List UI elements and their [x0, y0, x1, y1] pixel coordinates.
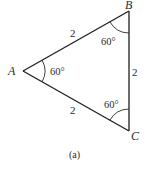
- vertex-label-c: C: [131, 129, 140, 143]
- vertex-label-a: A: [7, 64, 16, 78]
- angle-label-c: 60°: [104, 99, 119, 110]
- angle-label-b: 60°: [101, 36, 116, 47]
- vertex-label-b: B: [125, 0, 133, 12]
- side-label-ac: 2: [70, 104, 76, 116]
- angle-arc-b: [110, 22, 129, 33]
- triangle-diagram: A B C 2 2 2 60° 60° 60° (a): [0, 0, 152, 170]
- side-label-bc: 2: [132, 66, 138, 78]
- figure-caption: (a): [69, 149, 80, 161]
- angle-arc-c: [110, 109, 129, 120]
- angle-label-a: 60°: [50, 66, 65, 77]
- angle-arc-a: [42, 60, 45, 82]
- side-label-ab: 2: [70, 27, 76, 39]
